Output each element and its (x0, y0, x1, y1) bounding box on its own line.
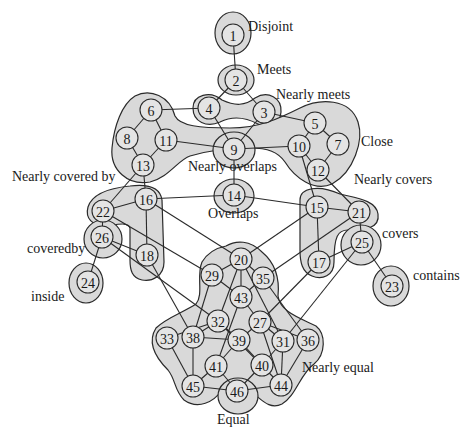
node-label: 39 (232, 334, 246, 349)
node-label: 22 (96, 205, 110, 220)
node-21: 21 (348, 201, 370, 223)
node-23: 23 (381, 275, 403, 297)
node-18: 18 (136, 244, 158, 266)
label-meets: Meets (257, 62, 291, 77)
node-label: 7 (335, 138, 342, 153)
node-46: 46 (226, 380, 248, 402)
node-label: 41 (209, 360, 223, 375)
node-27: 27 (249, 311, 271, 333)
label-nearly-overlaps: Nearly overlaps (188, 159, 277, 174)
node-label: 31 (276, 335, 290, 350)
node-label: 12 (311, 164, 325, 179)
node-7: 7 (327, 133, 349, 155)
node-10: 10 (288, 135, 310, 157)
node-label: 25 (355, 236, 369, 251)
node-label: 23 (385, 280, 399, 295)
node-15: 15 (306, 196, 328, 218)
node-35: 35 (252, 267, 274, 289)
node-label: 38 (186, 331, 200, 346)
label-nearly-covered-by: Nearly covered by (12, 169, 115, 184)
node-label: 3 (261, 106, 268, 121)
node-label: 1 (230, 29, 237, 44)
node-29: 29 (201, 264, 223, 286)
node-label: 45 (186, 380, 200, 395)
node-label: 18 (140, 249, 154, 264)
node-26: 26 (91, 226, 113, 248)
node-label: 4 (206, 102, 213, 117)
node-36: 36 (297, 329, 319, 351)
node-13: 13 (132, 154, 154, 176)
node-label: 16 (139, 193, 153, 208)
label-nearly-covers: Nearly covers (354, 172, 432, 187)
node-label: 2 (233, 74, 240, 89)
node-11: 11 (155, 129, 177, 151)
node-label: 6 (148, 104, 155, 119)
node-label: 24 (81, 276, 95, 291)
label-contains: contains (413, 268, 460, 283)
label-equal: Equal (217, 412, 250, 427)
node-label: 32 (211, 315, 225, 330)
label-close: Close (361, 134, 393, 149)
node-label: 35 (256, 272, 270, 287)
label-nearly-equal: Nearly equal (302, 360, 374, 375)
node-label: 9 (231, 143, 238, 158)
node-label: 10 (292, 140, 306, 155)
node-label: 17 (312, 256, 326, 271)
label-covers: covers (382, 226, 419, 241)
node-25: 25 (351, 231, 373, 253)
node-6: 6 (140, 99, 162, 121)
node-label: 43 (234, 291, 248, 306)
node-40: 40 (251, 354, 273, 376)
node-5: 5 (304, 112, 326, 134)
node-17: 17 (308, 251, 330, 273)
node-39: 39 (228, 329, 250, 351)
node-label: 14 (227, 189, 241, 204)
node-label: 27 (253, 316, 267, 331)
node-33: 33 (156, 327, 178, 349)
node-41: 41 (205, 355, 227, 377)
node-label: 13 (136, 159, 150, 174)
node-32: 32 (207, 310, 229, 332)
label-coveredby: coveredby (27, 241, 85, 256)
label-disjoint: Disjoint (248, 19, 293, 34)
node-2: 2 (225, 69, 247, 91)
node-label: 40 (255, 359, 269, 374)
node-label: 33 (160, 332, 174, 347)
node-14: 14 (223, 184, 245, 206)
label-overlaps: Overlaps (208, 206, 259, 221)
node-label: 36 (301, 334, 315, 349)
node-3: 3 (253, 101, 275, 123)
node-8: 8 (116, 127, 138, 149)
node-24: 24 (77, 271, 99, 293)
node-22: 22 (92, 200, 114, 222)
node-43: 43 (230, 286, 252, 308)
node-label: 46 (230, 385, 244, 400)
node-label: 5 (312, 117, 319, 132)
node-label: 8 (124, 132, 131, 147)
node-44: 44 (270, 374, 292, 396)
node-45: 45 (182, 375, 204, 397)
node-label: 26 (95, 231, 109, 246)
node-label: 21 (352, 206, 366, 221)
node-label: 11 (159, 134, 172, 149)
node-label: 20 (234, 253, 248, 268)
node-label: 15 (310, 201, 324, 216)
node-31: 31 (272, 330, 294, 352)
node-9: 9 (223, 138, 245, 160)
node-12: 12 (307, 159, 329, 181)
node-16: 16 (135, 188, 157, 210)
node-20: 20 (230, 248, 252, 270)
label-inside: inside (31, 289, 64, 304)
label-nearly-meets: Nearly meets (276, 87, 350, 102)
node-1: 1 (222, 24, 244, 46)
node-4: 4 (198, 97, 220, 119)
node-38: 38 (182, 326, 204, 348)
node-label: 44 (274, 379, 288, 394)
node-label: 29 (205, 269, 219, 284)
conceptual-neighborhood-diagram: 1234567891011121314151617182021222324252… (0, 0, 473, 438)
